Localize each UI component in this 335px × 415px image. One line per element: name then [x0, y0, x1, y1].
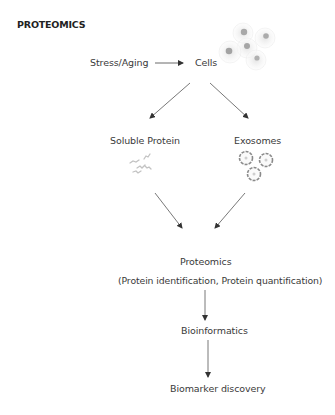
flow-diagram [0, 0, 335, 415]
arrow-exosomes-to-proteomics [215, 193, 245, 228]
cell-cluster-icon [219, 23, 275, 70]
arrow-soluble-protein-to-proteomics [155, 193, 182, 228]
arrow-cells-to-soluble-protein [150, 83, 190, 118]
arrow-cells-to-exosomes [210, 83, 248, 118]
exosome-vesicles-icon [240, 152, 273, 181]
protein-molecules-icon [130, 154, 151, 173]
